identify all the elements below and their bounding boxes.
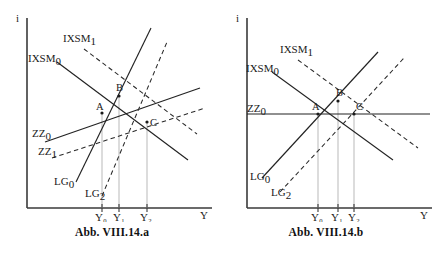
tick-label-y1-a: Y₁ bbox=[113, 211, 125, 222]
curve-zz0-a bbox=[45, 88, 200, 142]
curve-lg0-b bbox=[262, 52, 378, 178]
point-label-a-a: A bbox=[96, 101, 104, 112]
tick-label-y0-a: Y₀ bbox=[95, 211, 107, 222]
point-label-c-b: C bbox=[356, 101, 363, 112]
chart-panel-b: i Y Y₀ Y₁ Y₂ IXSM1 IXSM0 ZZ0 LG0 LG2 A B… bbox=[218, 0, 438, 222]
y-axis-label-b: i bbox=[236, 12, 239, 24]
curve-ixsm1-a bbox=[84, 49, 197, 134]
tick-label-y2-a: Y₂ bbox=[140, 211, 152, 222]
point-marker-c-a bbox=[145, 120, 148, 123]
tick-label-y2-b: Y₂ bbox=[348, 211, 360, 222]
curve-label-lg2-b: LG2 bbox=[271, 186, 291, 201]
curve-label-ixsm1-b: IXSM1 bbox=[280, 43, 313, 58]
point-label-b-a: B bbox=[116, 82, 123, 93]
tick-label-y0-b: Y₀ bbox=[311, 211, 323, 222]
curve-label-lg0-b: LG0 bbox=[250, 170, 271, 185]
chart-a-canvas: i Y Y₀ Y₁ Y₂ IXSM1 IXSM0 ZZ0 ZZ1 LG0 LG2… bbox=[0, 0, 220, 222]
point-marker-c-b bbox=[352, 112, 355, 115]
caption-b: Abb. VIII.14.b bbox=[216, 226, 436, 238]
point-label-a-b: A bbox=[312, 101, 320, 112]
curve-label-zz0-a: ZZ0 bbox=[32, 127, 51, 142]
point-marker-b-b bbox=[336, 99, 339, 102]
curve-label-zz1-a: ZZ1 bbox=[38, 145, 57, 160]
curve-label-lg2-a: LG2 bbox=[85, 187, 105, 202]
figure-sheet: i Y Y₀ Y₁ Y₂ IXSM1 IXSM0 ZZ0 ZZ1 LG0 LG2… bbox=[0, 0, 441, 257]
x-axis-label-b: Y bbox=[420, 209, 428, 221]
curve-lg2-b bbox=[280, 58, 404, 192]
x-axis-label-a: Y bbox=[200, 209, 208, 221]
caption-a: Abb. VIII.14.a bbox=[2, 226, 222, 238]
curve-label-lg0-a: LG0 bbox=[54, 175, 75, 190]
curve-label-ixsm0-a: IXSM0 bbox=[28, 52, 62, 67]
chart-panel-a: i Y Y₀ Y₁ Y₂ IXSM1 IXSM0 ZZ0 ZZ1 LG0 LG2… bbox=[0, 0, 220, 222]
point-label-c-a: C bbox=[150, 117, 157, 128]
y-axis-label-a: i bbox=[16, 12, 19, 24]
curve-ixsm0-a bbox=[57, 62, 188, 160]
point-label-b-b: B bbox=[336, 87, 343, 98]
curve-label-ixsm1-a: IXSM1 bbox=[63, 32, 96, 47]
point-marker-a-b bbox=[316, 112, 319, 115]
tick-label-y1-b: Y₁ bbox=[331, 211, 343, 222]
curve-label-ixsm0-b: IXSM0 bbox=[246, 62, 280, 77]
chart-b-canvas: i Y Y₀ Y₁ Y₂ IXSM1 IXSM0 ZZ0 LG0 LG2 A B… bbox=[218, 0, 438, 222]
point-marker-b-a bbox=[117, 94, 120, 97]
